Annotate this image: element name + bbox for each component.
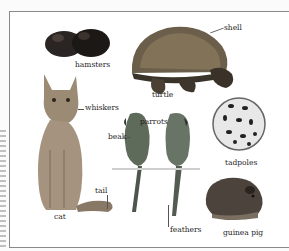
label-tail: tail: [95, 186, 107, 195]
leader-tail: [107, 195, 108, 209]
parrots-image: [112, 110, 200, 220]
label-parrots: parrots: [140, 117, 168, 126]
label-feathers: feathers: [170, 225, 201, 234]
leader-beak: [127, 137, 131, 138]
tadpoles-image: [211, 96, 267, 152]
hamsters-image: [44, 26, 114, 60]
label-guinea-pig: guinea pig: [223, 228, 263, 237]
guinea-pig-image: [202, 174, 266, 222]
vertical-page-text: [0, 130, 6, 248]
leader-feathers: [168, 205, 169, 227]
label-tadpoles: tadpoles: [225, 158, 257, 167]
label-cat: cat: [54, 212, 66, 221]
label-beak: beak: [108, 132, 126, 141]
label-shell: shell: [224, 23, 242, 32]
leader-whiskers: [78, 109, 84, 110]
label-turtle: turtle: [152, 90, 173, 99]
label-hamsters: hamsters: [75, 60, 110, 69]
